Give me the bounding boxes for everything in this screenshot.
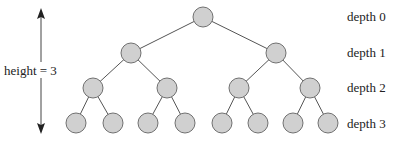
depth-label-3: depth 3 — [347, 116, 386, 131]
tree-edge — [203, 17, 276, 53]
tree-node-depth-2 — [300, 78, 320, 98]
tree-diagram: height = 3 depth 0 depth 1 depth 2 depth… — [0, 0, 405, 143]
tree-node-depth-2 — [157, 78, 177, 98]
tree-node-depth-1 — [266, 43, 286, 63]
tree-node-depth-2 — [83, 78, 103, 98]
tree-edges — [76, 17, 328, 123]
tree-nodes — [66, 7, 338, 133]
tree-node-depth-3 — [212, 113, 232, 133]
depth-label-0: depth 0 — [347, 9, 386, 24]
tree-node-depth-0 — [193, 7, 213, 27]
tree-node-depth-1 — [121, 43, 141, 63]
height-label: height = 3 — [4, 63, 57, 78]
tree-node-depth-3 — [175, 113, 195, 133]
tree-node-depth-3 — [248, 113, 268, 133]
tree-node-depth-3 — [318, 113, 338, 133]
height-arrow: height = 3 — [2, 8, 76, 134]
tree-node-depth-3 — [66, 113, 86, 133]
tree-node-depth-3 — [283, 113, 303, 133]
depth-label-2: depth 2 — [347, 80, 386, 95]
tree-node-depth-3 — [138, 113, 158, 133]
depth-labels: depth 0 depth 1 depth 2 depth 3 — [347, 9, 386, 131]
tree-node-depth-2 — [229, 78, 249, 98]
depth-label-1: depth 1 — [347, 45, 386, 60]
tree-node-depth-3 — [103, 113, 123, 133]
tree-edge — [131, 17, 203, 53]
